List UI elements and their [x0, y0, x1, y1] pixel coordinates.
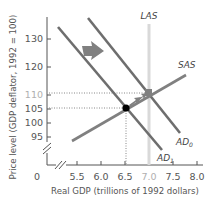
ad1-label: AD1 — [156, 153, 174, 164]
y-axis-title: Price level (GDP deflator, 1992 = 100) — [8, 15, 18, 180]
y-ticks — [47, 39, 51, 137]
svg-text:100: 100 — [25, 117, 43, 128]
svg-text:6.5: 6.5 — [117, 171, 132, 182]
y-tick-labels: 130 120 110 105 100 95 — [25, 33, 43, 142]
svg-text:7.0: 7.0 — [141, 171, 156, 182]
initial-equilibrium-marker — [145, 89, 152, 96]
svg-text:0: 0 — [34, 171, 40, 182]
y-axis-break-icon — [43, 143, 51, 154]
x-ticks — [77, 161, 197, 165]
x-axis-title: Real GDP (trillions of 1992 dollars) — [51, 186, 199, 196]
shift-arrow-icon — [82, 41, 104, 60]
x-axis-break-icon — [55, 161, 66, 169]
x-tick-labels: 0 5.5 6.0 6.5 7.0 7.5 8.0 — [34, 171, 205, 182]
svg-text:130: 130 — [25, 33, 43, 44]
sas-label: SAS — [178, 60, 196, 70]
svg-text:7.5: 7.5 — [165, 171, 180, 182]
svg-text:105: 105 — [25, 103, 43, 114]
new-equilibrium-marker — [122, 104, 129, 111]
las-label: LAS — [141, 11, 158, 21]
svg-text:110: 110 — [25, 89, 43, 100]
chart: Price level (GDP deflator, 1992 = 100) 1… — [0, 0, 210, 204]
svg-text:8.0: 8.0 — [189, 171, 204, 182]
svg-text:120: 120 — [25, 61, 43, 72]
ad0-label: AD0 — [175, 137, 193, 148]
svg-text:95: 95 — [31, 131, 43, 142]
svg-text:5.5: 5.5 — [69, 171, 84, 182]
svg-text:6.0: 6.0 — [93, 171, 108, 182]
